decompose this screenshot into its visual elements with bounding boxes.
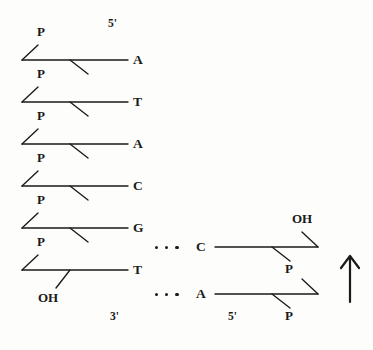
right-nucleotide-1 [215,232,318,261]
phosphate-bond-up [22,255,38,270]
hydrogen-bond-ta [155,293,179,296]
hbond-dot [165,246,168,249]
phosphate-label-left-2: P [37,67,45,80]
phosphate-bond-down [70,186,88,200]
hbond-dot [155,293,158,296]
left-nucleotide-6 [22,255,128,288]
phosphate-bond-up [22,213,38,228]
phosphate-bond-down [272,247,290,261]
base-letter-left-5: G [133,221,144,235]
base-letter-left-4: C [133,179,143,193]
phosphate-bond-down [70,228,88,242]
three-prime-label-bottom-left: 3' [110,311,119,323]
base-letter-right-1: C [196,240,206,254]
hydroxyl-bond [56,270,70,288]
up-arrow-icon [338,252,362,304]
dna-strand-diagram: A T A C G T P P P P P P 5' OH 3' C A OH … [0,0,373,350]
phosphate-label-right-1: P [285,262,293,275]
hbond-dot [155,246,158,249]
base-letter-right-2: A [196,287,206,301]
phosphate-bond-down [70,144,88,158]
five-prime-label-top-left: 5' [108,18,117,30]
phosphate-label-left-3: P [37,109,45,122]
hydroxyl-label-left: OH [38,291,58,304]
phosphate-label-left-1: P [37,25,45,38]
hydroxyl-bond [302,232,318,247]
right-nucleotide-2 [215,279,318,308]
base-letter-left-6: T [133,263,142,277]
hydrogen-bond-gc [155,246,179,249]
phosphate-bond-down [70,60,88,74]
base-letter-left-1: A [133,53,143,67]
phosphate-label-left-4: P [37,151,45,164]
five-prime-label-bottom-right: 5' [228,311,237,323]
phosphate-bond-down [272,294,290,308]
hbond-dot [165,293,168,296]
hydroxyl-label-right: OH [292,212,312,225]
hbond-dot [175,246,178,249]
phosphate-label-left-5: P [37,193,45,206]
phosphate-label-left-6: P [37,235,45,248]
phosphate-bond-up [22,45,38,60]
phosphate-bond-up [302,279,318,294]
phosphate-bond-down [70,102,88,116]
phosphate-label-right-2: P [285,309,293,322]
phosphate-bond-up [22,171,38,186]
phosphate-bond-up [22,87,38,102]
hbond-dot [175,293,178,296]
base-letter-left-2: T [133,95,142,109]
base-letter-left-3: A [133,137,143,151]
phosphate-bond-up [22,129,38,144]
